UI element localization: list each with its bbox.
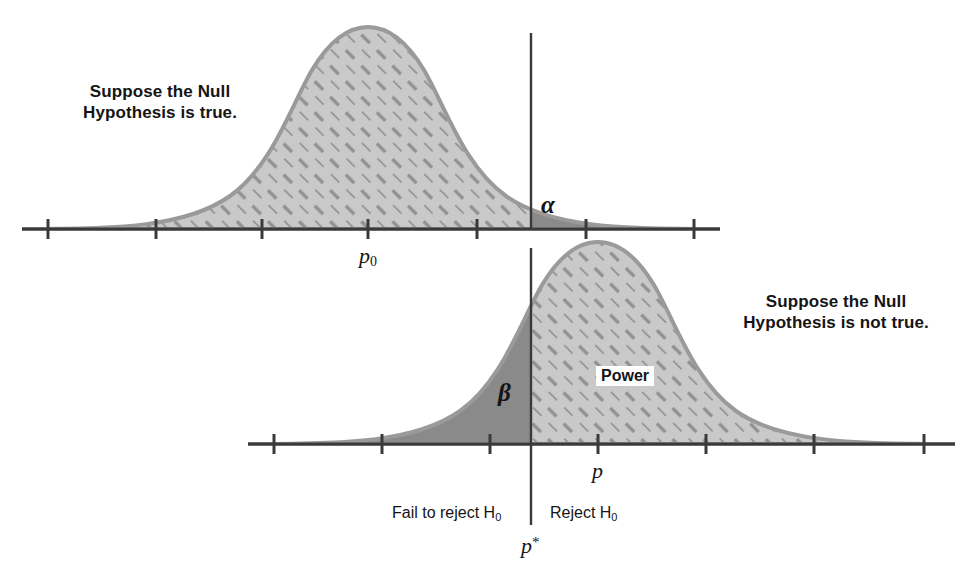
beta-symbol-label: β	[498, 378, 511, 409]
null-true-caption-line2: Hypothesis is true.	[40, 103, 280, 124]
null-distribution-curve	[22, 27, 720, 239]
alpha-symbol-label: α	[541, 190, 555, 221]
power-region	[248, 242, 955, 444]
null-center-letter: p	[359, 243, 370, 268]
null-false-caption: Suppose the Null Hypothesis is not true.	[712, 292, 960, 333]
fail-to-reject-text: Fail to reject H	[392, 504, 495, 521]
null-true-caption: Suppose the Null Hypothesis is true.	[40, 82, 280, 123]
fail-to-reject-subscript: 0	[495, 511, 501, 523]
reject-subscript: 0	[611, 511, 617, 523]
power-label-text: Power	[596, 366, 654, 386]
fail-to-reject-label: Fail to reject H0	[392, 503, 501, 524]
threshold-superscript: *	[532, 534, 540, 550]
null-center-label: p0	[359, 243, 377, 270]
null-center-subscript: 0	[370, 254, 377, 269]
threshold-letter: p	[521, 533, 532, 558]
null-fail-to-reject-region	[22, 27, 720, 229]
power-label: Power	[596, 366, 654, 386]
null-true-caption-line1: Suppose the Null	[40, 82, 280, 103]
reject-text: Reject H	[550, 504, 611, 521]
null-false-caption-line2: Hypothesis is not true.	[712, 313, 960, 334]
alternative-center-label: p	[592, 458, 603, 485]
alternative-distribution-curve	[248, 242, 955, 454]
reject-label: Reject H0	[550, 503, 617, 524]
power-of-test-figure: Suppose the Null Hypothesis is true. Sup…	[0, 0, 969, 578]
null-false-caption-line1: Suppose the Null	[712, 292, 960, 313]
threshold-label: p*	[521, 533, 540, 560]
